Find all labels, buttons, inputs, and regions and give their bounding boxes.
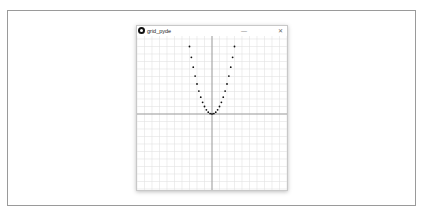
plot-canvas[interactable] (137, 36, 287, 190)
close-button[interactable]: ✕ (273, 26, 287, 36)
data-point (215, 111, 217, 113)
data-point (228, 75, 230, 77)
data-point (220, 101, 222, 103)
data-point (192, 66, 194, 68)
data-point (202, 101, 204, 103)
data-point (226, 83, 228, 85)
data-point (196, 83, 198, 85)
data-point (230, 66, 232, 68)
processing-app-icon (138, 27, 145, 34)
window-title: grid_pyde (147, 26, 171, 36)
data-point (194, 75, 196, 77)
data-point (207, 111, 209, 113)
data-point (200, 96, 202, 98)
app-window: grid_pyde — ✕ (136, 25, 288, 191)
parabola-plot (137, 36, 287, 190)
data-point (222, 96, 224, 98)
data-point (189, 46, 191, 48)
data-point (209, 113, 211, 115)
title-bar[interactable]: grid_pyde — ✕ (137, 26, 287, 36)
data-point (234, 46, 236, 48)
data-point (224, 90, 226, 92)
data-point (219, 106, 221, 108)
data-point (211, 113, 213, 115)
data-point (232, 56, 234, 58)
data-point (204, 106, 206, 108)
data-point (217, 109, 219, 111)
data-point (213, 113, 215, 115)
data-point (198, 90, 200, 92)
data-point (190, 56, 192, 58)
minimize-button[interactable]: — (237, 26, 251, 36)
data-point (205, 109, 207, 111)
